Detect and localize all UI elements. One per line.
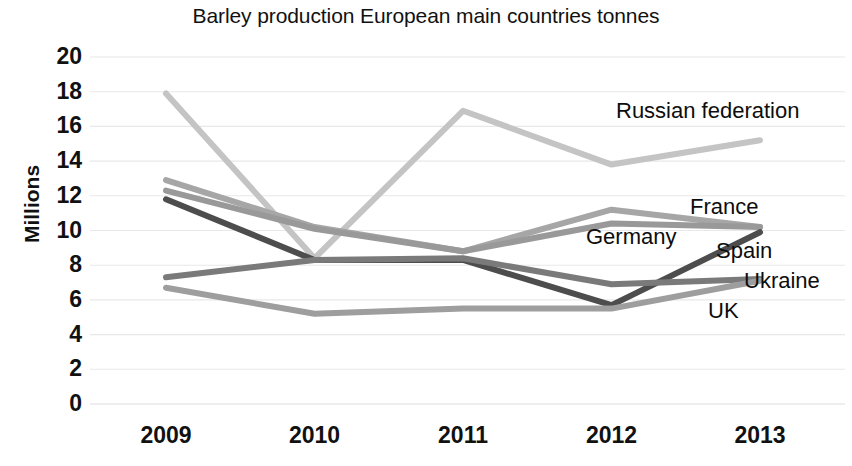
chart-container: Barley production European main countrie… bbox=[0, 0, 852, 466]
x-axis-tick-label: 2010 bbox=[255, 424, 375, 447]
series-label-france: France bbox=[690, 196, 758, 218]
series-label-russian-federation: Russian federation bbox=[616, 100, 799, 122]
x-axis-tick-label: 2013 bbox=[700, 424, 820, 447]
series-label-uk: UK bbox=[708, 300, 739, 322]
x-axis-tick-label: 2011 bbox=[403, 424, 523, 447]
x-axis-tick-label: 2009 bbox=[106, 424, 226, 447]
series-label-ukraine: Ukraine bbox=[744, 270, 820, 292]
x-axis-tick-label: 2012 bbox=[552, 424, 672, 447]
series-label-germany: Germany bbox=[586, 226, 676, 248]
series-label-spain: Spain bbox=[716, 240, 772, 262]
x-axis-tick-labels: 20092010201120122013 bbox=[0, 0, 852, 466]
